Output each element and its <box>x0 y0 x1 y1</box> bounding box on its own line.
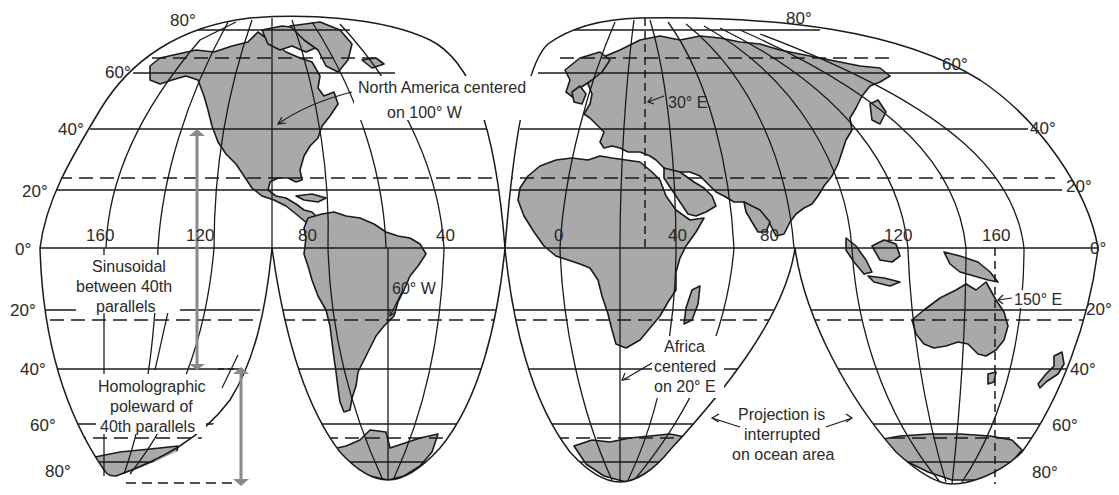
lon-label-160e: 160 <box>982 226 1010 245</box>
annotation-sinusoidal-3: parallels <box>96 298 156 315</box>
land-australia <box>912 282 1008 356</box>
lat-label-20n-left: 20° <box>22 182 48 201</box>
lon-label-80w: 80 <box>298 226 317 245</box>
land-sumatra <box>846 238 872 274</box>
annotation-30e: 30° E. <box>668 94 712 111</box>
lon-label-0: 0 <box>554 226 563 245</box>
leader-africa <box>623 363 652 380</box>
annotation-sinusoidal-1: Sinusoidal <box>92 258 166 275</box>
land-java <box>868 276 900 286</box>
land-south-america <box>304 212 426 412</box>
annotation-homolographic-2: poleward of <box>110 398 193 415</box>
land-cuba <box>296 194 326 202</box>
annotation-interrupted-3: on ocean area <box>732 446 834 463</box>
lat-label-eq-left: 0° <box>15 240 31 259</box>
lat-label-20n-right: 20° <box>1066 177 1092 196</box>
annotation-north-america-2: on 100° W <box>387 104 463 121</box>
lat-label-80n-left: 80° <box>170 11 196 30</box>
annotation-sinusoidal-2: between 40th <box>76 278 172 295</box>
annotation-north-america-1: North America centered <box>358 79 526 96</box>
lon-label-120e: 120 <box>884 226 912 245</box>
lon-label-80e: 80 <box>760 226 779 245</box>
lat-label-40n-right: 40° <box>1030 119 1056 138</box>
annotation-60w: 60° W <box>392 280 437 297</box>
lat-label-eq-right: 0° <box>1090 239 1106 258</box>
lat-label-80n-right: 80° <box>786 9 812 28</box>
lat-label-60n-left: 60° <box>105 63 131 82</box>
lon-label-40e: 40 <box>668 226 687 245</box>
lat-label-80s-right: 80° <box>1032 463 1058 482</box>
lat-label-20s-left: 20° <box>10 301 36 320</box>
annotation-africa-2: centered <box>654 358 716 375</box>
lat-label-80s-left: 80° <box>45 462 71 481</box>
interrupted-homolosine-map: 80° 60° 40° 20° 0° 20° 40° 60° 80° 80° 6… <box>0 0 1119 495</box>
lat-label-40s-left: 40° <box>20 360 46 379</box>
lon-label-120w: 120 <box>186 226 214 245</box>
lon-label-160w: 160 <box>86 226 114 245</box>
annotation-150e: 150° E <box>1014 291 1062 308</box>
annotation-homolographic-3: 40th parallels <box>100 418 195 435</box>
annotation-interrupted-1: Projection is <box>738 406 825 423</box>
annotation-interrupted-2: interrupted <box>744 426 821 443</box>
land-new-zealand <box>1038 352 1064 388</box>
lat-label-40n-left: 40° <box>58 120 84 139</box>
arrowhead-up <box>189 129 205 136</box>
lat-label-60s-right: 60° <box>1052 416 1078 435</box>
lat-label-20s-right: 20° <box>1086 300 1112 319</box>
annotation-homolographic-1: Homolographic <box>98 378 206 395</box>
annotation-africa-3: on 20° E <box>654 378 716 395</box>
lat-label-60n-right: 60° <box>942 55 968 74</box>
lat-label-40s-right: 40° <box>1070 360 1096 379</box>
land-new-guinea <box>944 252 998 282</box>
land-madagascar <box>684 286 700 324</box>
lon-label-40w: 40 <box>436 226 455 245</box>
meridian-40w-n <box>340 24 444 248</box>
lat-label-60s-left: 60° <box>30 416 56 435</box>
leader-homolographic <box>222 355 238 388</box>
annotation-africa-1: Africa <box>664 338 705 355</box>
